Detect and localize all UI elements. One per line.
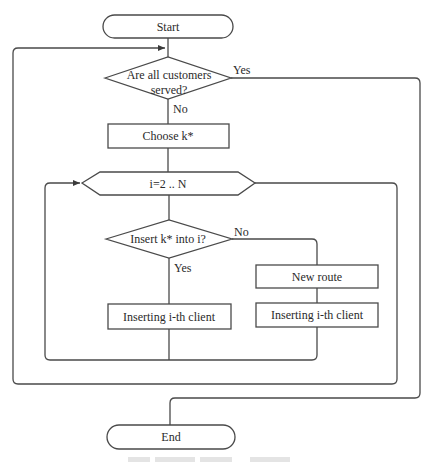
- decision-all-served-line2: served?: [151, 83, 188, 97]
- start-terminator[interactable]: Start: [103, 15, 233, 38]
- start-label: Start: [157, 20, 180, 34]
- edge-label-insert-yes: Yes: [174, 261, 192, 275]
- decision-insert-k[interactable]: Insert k* into i?: [106, 220, 232, 258]
- edge-label-insert-no: No: [234, 225, 249, 239]
- process-inserting-left[interactable]: Inserting i-th client: [108, 304, 231, 329]
- edge-outer-loop-return: [13, 48, 397, 384]
- insert-k-label: Insert k* into i?: [130, 232, 206, 246]
- edge-label-all-served-no: No: [173, 102, 188, 116]
- new-route-label: New route: [292, 270, 342, 284]
- choose-k-label: Choose k*: [143, 129, 194, 143]
- flowchart-canvas: Start Are all customers served? Yes No C…: [0, 0, 433, 463]
- process-new-route[interactable]: New route: [256, 265, 378, 288]
- decision-all-served-line1: Are all customers: [127, 68, 212, 82]
- inserting-right-label: Inserting i-th client: [271, 308, 364, 322]
- process-choose-k[interactable]: Choose k*: [108, 124, 229, 148]
- end-terminator[interactable]: End: [107, 425, 235, 449]
- edge-insert-no: [232, 239, 317, 265]
- process-inserting-right[interactable]: Inserting i-th client: [256, 303, 378, 327]
- caption-clipped: [128, 457, 290, 462]
- edge-label-all-served-yes: Yes: [233, 63, 251, 77]
- end-label: End: [161, 430, 180, 444]
- loop-hexagon-i[interactable]: i=2 .. N: [82, 172, 255, 195]
- inserting-left-label: Inserting i-th client: [123, 310, 216, 324]
- decision-all-customers-served[interactable]: Are all customers served?: [105, 57, 231, 99]
- loop-label: i=2 .. N: [150, 177, 187, 191]
